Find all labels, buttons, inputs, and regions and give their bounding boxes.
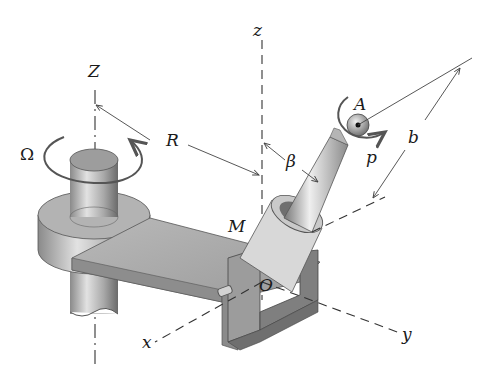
label-point-A: A	[352, 94, 366, 114]
label-z-axis: z	[252, 20, 263, 40]
label-length-b: b	[408, 127, 419, 147]
label-spin-p: p	[366, 147, 377, 167]
label-omega: Ω	[20, 144, 34, 164]
label-angle-beta: β	[285, 151, 296, 171]
label-origin-O: O	[259, 275, 273, 295]
label-radius-R: R	[165, 130, 179, 150]
label-Z-axis: Z	[87, 61, 101, 81]
label-point-M: M	[227, 216, 246, 236]
label-x-axis: x	[142, 332, 152, 352]
upper-shaft	[70, 149, 118, 227]
mechanics-figure: Z z x y O M A R β b p Ω	[0, 0, 502, 375]
label-y-axis: y	[401, 324, 412, 344]
